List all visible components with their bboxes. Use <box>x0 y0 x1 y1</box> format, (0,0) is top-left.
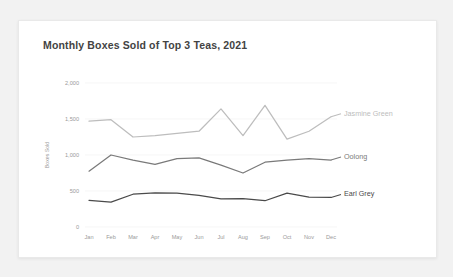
gridlines <box>85 83 337 227</box>
y-tick-label: 2,000 <box>65 80 79 86</box>
series-lines <box>89 105 331 202</box>
line-chart: 05001,0001,5002,000 JanFebMarAprMayJunJu… <box>19 21 438 259</box>
x-tick-label: Jun <box>194 234 203 240</box>
x-tick-label: Mar <box>128 234 138 240</box>
series-labels: Jasmine GreenOolongEarl Grey <box>331 109 393 199</box>
series-label-connector <box>331 194 341 197</box>
x-tick-label: Sep <box>260 234 270 240</box>
y-tick-label: 0 <box>76 224 79 230</box>
x-tick-label: Jul <box>217 234 224 240</box>
x-tick-label: May <box>172 234 183 240</box>
x-tick-label: Aug <box>238 234 248 240</box>
y-axis-title: Boxes Sold <box>44 142 50 168</box>
x-tick-label: Dec <box>326 234 336 240</box>
y-axis-ticks: 05001,0001,5002,000 <box>65 80 79 230</box>
series-label: Jasmine Green <box>344 109 393 118</box>
series-label: Oolong <box>344 152 367 161</box>
series-label-connector <box>331 114 341 117</box>
y-axis-title-text: Boxes Sold <box>44 142 50 168</box>
x-tick-label: Oct <box>283 234 292 240</box>
series-line <box>89 155 331 173</box>
series-line <box>89 193 331 202</box>
x-axis-ticks: JanFebMarAprMayJunJulAugSepOctNovDec <box>84 234 336 240</box>
y-tick-label: 1,000 <box>65 152 79 158</box>
y-tick-label: 500 <box>70 188 79 194</box>
chart-card: Monthly Boxes Sold of Top 3 Teas, 2021 0… <box>18 20 437 258</box>
x-tick-label: Feb <box>106 234 116 240</box>
x-tick-label: Jan <box>84 234 93 240</box>
x-tick-label: Nov <box>304 234 314 240</box>
y-tick-label: 1,500 <box>65 116 79 122</box>
series-label: Earl Grey <box>344 189 375 198</box>
screenshot-root: Monthly Boxes Sold of Top 3 Teas, 2021 0… <box>0 0 453 277</box>
series-line <box>89 105 331 139</box>
series-label-connector <box>331 157 341 160</box>
x-tick-label: Apr <box>151 234 160 240</box>
